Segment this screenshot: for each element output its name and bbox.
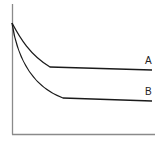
curve-b bbox=[12, 23, 152, 101]
curve-b-label: B bbox=[145, 86, 152, 97]
curve-a-label: A bbox=[145, 55, 152, 66]
line-chart: A B bbox=[0, 0, 163, 148]
curve-a bbox=[12, 23, 152, 70]
